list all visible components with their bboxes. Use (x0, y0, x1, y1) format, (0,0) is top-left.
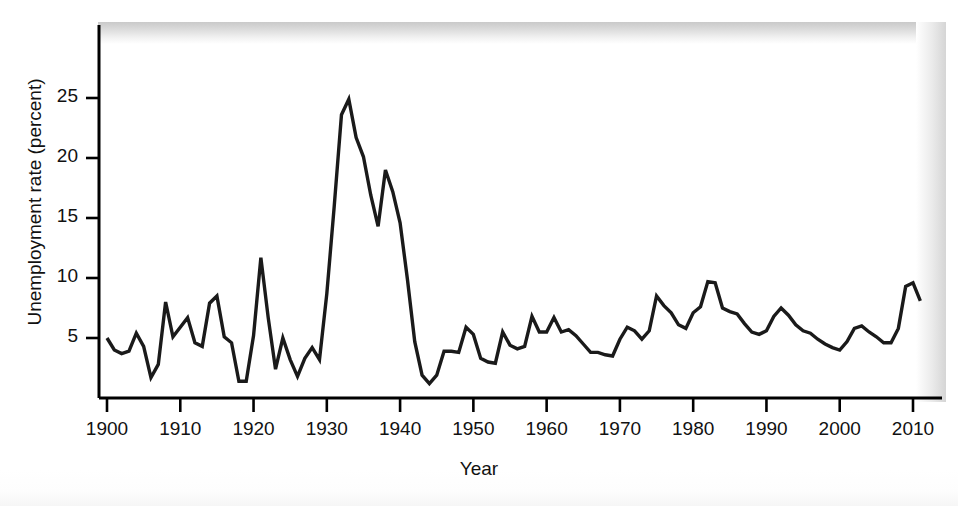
x-tick-label: 1940 (365, 418, 435, 440)
figure: 510152025 190019101920193019401950196019… (0, 0, 958, 506)
unemployment-line (107, 99, 920, 383)
y-axis-ticks (86, 98, 99, 338)
x-tick-label: 2000 (805, 418, 875, 440)
x-axis-title-text: Year (460, 458, 498, 480)
x-tick-label: 1980 (658, 418, 728, 440)
x-tick-label: 1930 (292, 418, 362, 440)
x-tick-label: 1910 (145, 418, 215, 440)
x-axis-ticks (107, 398, 913, 412)
y-axis-title: Unemployment rate (percent) (18, 22, 52, 382)
x-tick-label: 1970 (585, 418, 655, 440)
x-tick-label: 1990 (731, 418, 801, 440)
x-tick-label: 1920 (219, 418, 289, 440)
x-tick-label: 1900 (72, 418, 142, 440)
x-tick-label: 1950 (438, 418, 508, 440)
x-tick-label: 2010 (878, 418, 948, 440)
x-axis-title: Year (0, 458, 958, 480)
x-tick-label: 1960 (512, 418, 582, 440)
